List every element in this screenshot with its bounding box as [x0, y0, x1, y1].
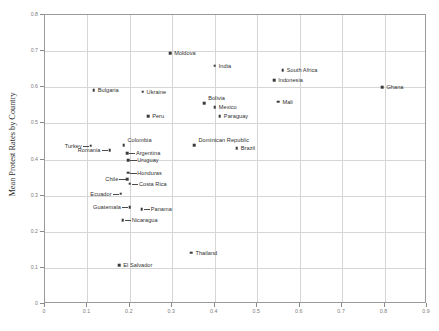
- data-point[interactable]: [129, 182, 132, 185]
- data-point[interactable]: [273, 79, 276, 82]
- data-point[interactable]: [118, 264, 121, 267]
- label-leader-line: [119, 179, 126, 180]
- data-point[interactable]: [277, 100, 280, 103]
- y-axis-tick-label: 0.4: [16, 156, 38, 162]
- x-axis-tick-label: 0.1: [83, 308, 91, 314]
- plot-area: MoldovaIndiaSouth AfricaIndonesiaBulgari…: [44, 14, 426, 303]
- gridline-vertical: [342, 15, 343, 302]
- data-point[interactable]: [93, 89, 96, 92]
- data-point[interactable]: [119, 193, 122, 196]
- data-point[interactable]: [381, 86, 384, 89]
- data-point-label: Costa Rica: [139, 181, 167, 187]
- data-point-label: Indonesia: [278, 77, 303, 83]
- data-point[interactable]: [169, 52, 172, 55]
- x-axis-tick-label: 0: [43, 308, 46, 314]
- data-point-label: Brazil: [241, 145, 255, 151]
- label-leader-line: [125, 220, 132, 221]
- data-point-label: Peru: [152, 113, 164, 119]
- gridline-vertical: [215, 15, 216, 302]
- data-point-label: Panama: [151, 206, 172, 212]
- data-point[interactable]: [127, 159, 130, 162]
- data-point[interactable]: [126, 178, 129, 181]
- data-point-label: Ukraine: [147, 89, 167, 95]
- data-point[interactable]: [219, 115, 222, 118]
- data-point[interactable]: [281, 69, 284, 72]
- y-axis-tick-label: 0.3: [16, 192, 38, 198]
- gridline-vertical: [385, 15, 386, 302]
- data-point[interactable]: [122, 144, 125, 147]
- data-point[interactable]: [213, 64, 216, 67]
- data-point[interactable]: [127, 172, 130, 175]
- x-axis-tick-label: 0.5: [252, 308, 260, 314]
- x-axis-tick-label: 0.9: [422, 308, 430, 314]
- data-point[interactable]: [140, 208, 143, 211]
- data-point[interactable]: [129, 206, 132, 209]
- label-leader-line: [102, 150, 109, 151]
- x-axis-tick: [129, 303, 130, 307]
- data-point-label: Colombia: [128, 137, 152, 143]
- data-point-label: South Africa: [287, 67, 318, 73]
- data-point[interactable]: [213, 106, 216, 109]
- data-point-label: Uruguay: [137, 157, 159, 163]
- x-axis-tick-label: 0.3: [168, 308, 176, 314]
- y-axis-tick-label: 0.2: [16, 228, 38, 234]
- label-leader-line: [129, 153, 136, 154]
- data-point[interactable]: [190, 251, 193, 254]
- label-leader-line: [113, 194, 120, 195]
- gridline-vertical: [257, 15, 258, 302]
- data-point[interactable]: [147, 115, 150, 118]
- data-point-label: Ecuador: [90, 191, 111, 197]
- x-axis-tick-label: 0.7: [337, 308, 345, 314]
- y-axis-tick: [40, 303, 44, 304]
- data-point-label: Argentina: [136, 150, 160, 156]
- x-axis-tick: [299, 303, 300, 307]
- x-axis-tick-label: 0.6: [295, 308, 303, 314]
- x-axis-tick: [44, 303, 45, 307]
- data-point-label: Bolivia: [208, 95, 225, 101]
- data-point[interactable]: [108, 149, 111, 152]
- x-axis-tick-label: 0.8: [380, 308, 388, 314]
- x-axis-tick-label: 0.2: [125, 308, 133, 314]
- gridline-horizontal: [45, 51, 425, 52]
- data-point-label: Bulgaria: [98, 87, 119, 93]
- gridline-horizontal: [45, 160, 425, 161]
- gridline-vertical: [172, 15, 173, 302]
- x-axis-tick: [426, 303, 427, 307]
- data-point[interactable]: [193, 144, 196, 147]
- x-axis-tick: [171, 303, 172, 307]
- data-point-label: Honduras: [137, 170, 162, 176]
- gridline-horizontal: [45, 268, 425, 269]
- data-point-label: Chile: [105, 176, 118, 182]
- label-leader-line: [130, 173, 137, 174]
- x-axis-tick: [256, 303, 257, 307]
- data-point[interactable]: [121, 219, 124, 222]
- x-axis-tick: [384, 303, 385, 307]
- data-point-label: Thailand: [195, 250, 217, 256]
- data-point-label: Dominican Republic: [198, 137, 249, 143]
- scatter-plot-figure: Mean Protest Rates by Country 00.10.20.3…: [0, 0, 439, 331]
- y-axis-tick-label: 0.1: [16, 264, 38, 270]
- gridline-vertical: [87, 15, 88, 302]
- data-point[interactable]: [126, 152, 129, 155]
- data-point[interactable]: [141, 90, 144, 93]
- x-axis-tick-label: 0.4: [210, 308, 218, 314]
- y-axis-tick-label: 0.7: [16, 47, 38, 53]
- x-axis-tick: [86, 303, 87, 307]
- label-leader-line: [132, 184, 139, 185]
- data-point-label: Mali: [282, 99, 292, 105]
- gridline-vertical: [300, 15, 301, 302]
- label-leader-line: [122, 207, 129, 208]
- data-point-label: Guatemala: [93, 204, 121, 210]
- y-axis-tick-label: 0.5: [16, 119, 38, 125]
- y-axis-tick-label: 0.6: [16, 83, 38, 89]
- data-point-label: Romania: [78, 147, 101, 153]
- data-point-label: Nicaragua: [132, 217, 158, 223]
- y-axis-title: Mean Protest Rates by Country: [8, 55, 17, 235]
- x-axis-tick: [214, 303, 215, 307]
- data-point[interactable]: [203, 102, 206, 105]
- data-point[interactable]: [236, 147, 239, 150]
- data-point-label: India: [219, 63, 231, 69]
- y-axis-tick-label: 0: [16, 300, 38, 306]
- label-leader-line: [144, 209, 151, 210]
- data-point-label: Moldova: [174, 50, 196, 56]
